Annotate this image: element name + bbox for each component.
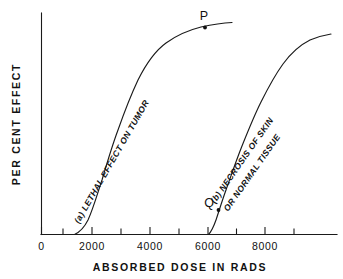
curve-label-lethal-effect-tumor: (a) LETHAL EFFECT ON TUMOR — [72, 98, 151, 225]
x-tick-label-0: 0 — [38, 240, 44, 252]
x-tick-label-4000: 4000 — [137, 240, 163, 252]
point-q-marker — [217, 208, 221, 212]
chart-figure: 0 2000 4000 6000 8000 ABSORBED DOSE IN R… — [0, 0, 343, 279]
x-tick-label-6000: 6000 — [195, 240, 221, 252]
x-axis-title: ABSORBED DOSE IN RADS — [93, 261, 268, 273]
point-p-marker — [203, 26, 207, 30]
chart-plot-area: 0 2000 4000 6000 8000 ABSORBED DOSE IN R… — [0, 0, 343, 279]
x-tick-label-2000: 2000 — [79, 240, 105, 252]
x-tick-label-8000: 8000 — [252, 240, 278, 252]
point-p-label: P — [200, 9, 208, 23]
y-axis-title: PER CENT EFFECT — [10, 63, 22, 185]
